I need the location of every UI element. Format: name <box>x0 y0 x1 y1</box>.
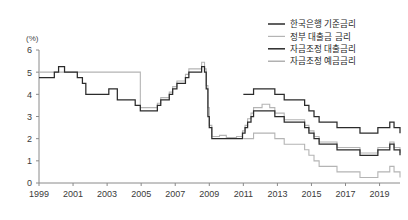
y-axis-unit-label: (%) <box>26 34 39 43</box>
y-tick-label-2: 2 <box>27 134 32 144</box>
x-tick-label-2017: 2017 <box>335 189 355 199</box>
y-tick-label-6: 6 <box>27 45 32 55</box>
x-tick-label-2007: 2007 <box>165 189 185 199</box>
x-tick-label-2015: 2015 <box>301 189 321 199</box>
x-tick-label-1999: 1999 <box>29 189 49 199</box>
y-tick-label-4: 4 <box>27 90 32 100</box>
y-tick-label-1: 1 <box>27 156 32 166</box>
y-tick-label-0: 0 <box>27 178 32 188</box>
y-tick-label-3: 3 <box>27 112 32 122</box>
x-tick-label-2011: 2011 <box>234 189 253 199</box>
legend-label-liquidity-deposit-rate: 자금조정 예금금리 <box>290 56 356 66</box>
legend-label-bok-base-rate: 한국은행 기준금리 <box>290 18 356 29</box>
legend-label-liquidity-lending-rate: 자금조정 대출금리 <box>290 44 356 54</box>
interest-rate-chart: (%) 0123456 1999200120032005200720092011… <box>0 0 408 220</box>
x-tick-label-2019: 2019 <box>370 189 390 199</box>
x-tick-label-2013: 2013 <box>267 189 287 199</box>
x-tick-label-2001: 2001 <box>63 189 83 199</box>
y-tick-label-5: 5 <box>27 68 32 78</box>
x-axis-tick-labels: 1999200120032005200720092011201320152017… <box>29 189 390 199</box>
x-tick-label-2003: 2003 <box>97 189 117 199</box>
x-tick-label-2005: 2005 <box>131 189 151 199</box>
x-tick-label-2009: 2009 <box>199 189 219 199</box>
legend-label-government-loan-rate: 정부 대출금 금리 <box>290 32 351 42</box>
